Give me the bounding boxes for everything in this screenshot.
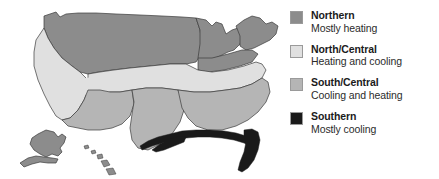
- legend-swatch-north-central-icon: [290, 45, 303, 58]
- legend-label-northern: Northern: [311, 9, 377, 22]
- legend-item-southern: Southern Mostly cooling: [290, 110, 439, 136]
- legend-item-south-central: South/Central Cooling and heating: [290, 76, 439, 102]
- legend-swatch-southern-icon: [290, 112, 303, 125]
- legend-desc-northern: Mostly heating: [311, 22, 377, 35]
- legend-swatch-northern-icon: [290, 11, 303, 24]
- zone-northern-hawaii-inset: [84, 145, 116, 175]
- legend-label-southern: Southern: [311, 110, 376, 123]
- map-panel: [0, 0, 285, 179]
- zone-northern-alaska-inset: [30, 130, 66, 157]
- climate-zone-legend: Northern Mostly heating North/Central He…: [290, 9, 439, 174]
- legend-text-northern: Northern Mostly heating: [311, 9, 377, 35]
- legend-swatch-south-central-icon: [290, 78, 303, 91]
- legend-desc-southern: Mostly cooling: [311, 123, 376, 136]
- legend-item-northern: Northern Mostly heating: [290, 9, 439, 35]
- legend-text-north-central: North/Central Heating and cooling: [311, 43, 402, 69]
- legend-desc-south-central: Cooling and heating: [311, 89, 403, 102]
- legend-label-north-central: North/Central: [311, 43, 402, 56]
- legend-desc-north-central: Heating and cooling: [311, 55, 402, 68]
- us-map-svg: [0, 0, 285, 179]
- zone-northern-alaska-tail: [20, 156, 58, 167]
- legend-label-south-central: South/Central: [311, 76, 403, 89]
- climate-zone-figure: Northern Mostly heating North/Central He…: [0, 0, 439, 179]
- zone-northern-northeast: [236, 16, 278, 50]
- legend-text-south-central: South/Central Cooling and heating: [311, 76, 403, 102]
- legend-item-north-central: North/Central Heating and cooling: [290, 43, 439, 69]
- legend-text-southern: Southern Mostly cooling: [311, 110, 376, 136]
